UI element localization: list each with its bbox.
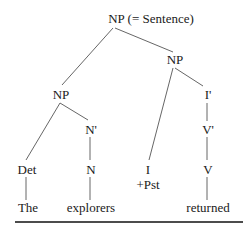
node-n-bar: N' [85, 123, 97, 137]
edge-npleft-nbar [60, 103, 88, 120]
node-i-bar: I' [205, 88, 212, 102]
node-np-right: NP [167, 53, 184, 67]
edge-root-npright [115, 28, 173, 52]
tree-edges [0, 0, 243, 226]
word-the: The [18, 201, 38, 215]
node-root: NP (= Sentence) [108, 12, 194, 26]
word-returned: returned [186, 201, 229, 215]
node-n: N [86, 163, 95, 177]
edge-root-npleft [62, 28, 113, 85]
edge-npleft-det [26, 103, 60, 160]
node-det: Det [18, 163, 37, 177]
node-np-left: NP [53, 88, 70, 102]
edge-npright-ibar [175, 68, 203, 86]
node-v-bar: V' [202, 123, 214, 137]
edge-npright-i [149, 68, 173, 160]
node-i: I [146, 163, 150, 177]
node-i-feature: +Pst [136, 178, 159, 192]
node-v: V [203, 163, 212, 177]
word-explorers: explorers [67, 201, 115, 215]
